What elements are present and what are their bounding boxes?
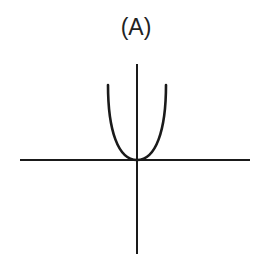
parabola-graph [0, 0, 262, 258]
